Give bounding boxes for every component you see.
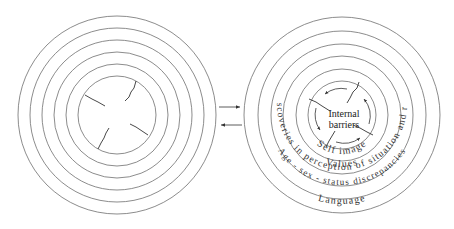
connector-arrows (219, 107, 242, 125)
arrow-curved-icon (325, 88, 347, 94)
center-label-line2: barriers (329, 119, 360, 130)
arrow-curved-icon (315, 108, 320, 130)
ring-label-language: Language (317, 192, 366, 206)
communication-barriers-diagram: Internal barriers Self image Values Disc… (0, 0, 454, 229)
center-label-line1: Internal (328, 108, 359, 119)
arrow-curved-icon (364, 99, 370, 124)
left-crack-lines (85, 81, 148, 149)
ring-label-self-image: Self image (315, 137, 368, 156)
left-concentric-circles (18, 16, 216, 214)
